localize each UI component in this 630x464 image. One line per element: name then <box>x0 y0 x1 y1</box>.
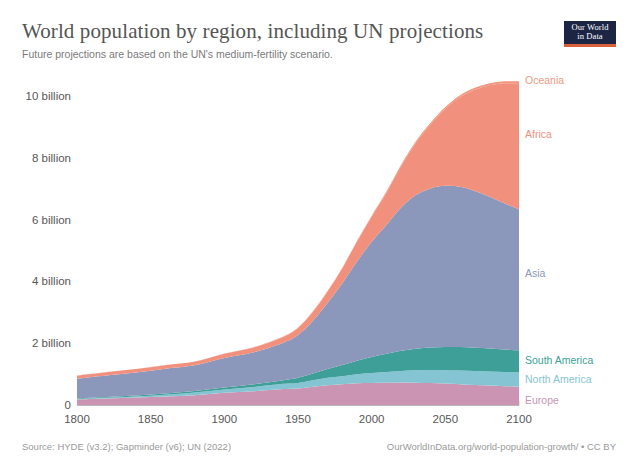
y-tick-label: 6 billion <box>32 214 71 226</box>
y-tick-label: 2 billion <box>32 337 71 349</box>
y-tick-label: 8 billion <box>32 152 71 164</box>
series-label-africa[interactable]: Africa <box>525 128 552 140</box>
footer-source: Source: HYDE (v3.2); Gapminder (v6); UN … <box>22 441 231 452</box>
x-tick-label: 2050 <box>415 413 475 425</box>
series-label-north-america[interactable]: North America <box>525 373 592 385</box>
y-tick-label: 10 billion <box>26 90 71 102</box>
x-tick-label: 1900 <box>194 413 254 425</box>
footer-url-license[interactable]: OurWorldInData.org/world-population-grow… <box>387 441 616 452</box>
chart-footer: Source: HYDE (v3.2); Gapminder (v6); UN … <box>0 430 630 464</box>
x-tick-label: 1850 <box>121 413 181 425</box>
series-label-oceania[interactable]: Oceania <box>525 74 564 86</box>
x-tick-label: 1800 <box>47 413 107 425</box>
series-label-south-america[interactable]: South America <box>525 354 593 366</box>
series-label-asia[interactable]: Asia <box>525 267 545 279</box>
chart-page: World population by region, including UN… <box>0 0 630 464</box>
series-label-europe[interactable]: Europe <box>525 394 559 406</box>
y-tick-label: 4 billion <box>32 275 71 287</box>
chart-plot-area: 02 billion4 billion6 billion8 billion10 … <box>0 0 630 430</box>
area-series-group <box>77 81 519 405</box>
y-tick-label: 0 <box>65 399 71 411</box>
x-tick-label: 1950 <box>268 413 328 425</box>
x-tick-label: 2000 <box>342 413 402 425</box>
x-tick-label: 2100 <box>489 413 549 425</box>
